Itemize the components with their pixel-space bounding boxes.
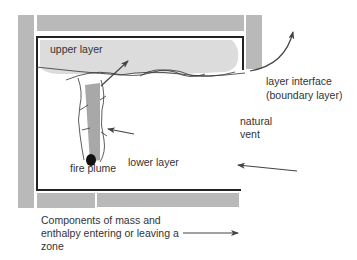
natural-vent-label-1: natural bbox=[240, 115, 272, 127]
two-zone-fire-diagram: upper layer layer interface (boundary la… bbox=[0, 0, 357, 260]
left-wall bbox=[18, 15, 34, 208]
right-wall-upper bbox=[246, 15, 262, 69]
lower-layer-label: lower layer bbox=[128, 156, 179, 168]
legend-text-3: zone bbox=[41, 240, 64, 252]
vent-inflow-arrow bbox=[238, 165, 297, 171]
legend-text-2: enthalpy entering or leaving a bbox=[41, 227, 179, 239]
boundary-layer-label: (boundary layer) bbox=[266, 89, 342, 101]
room-outline-lower bbox=[37, 69, 241, 190]
ceiling-wall bbox=[37, 15, 244, 31]
fire-plume bbox=[78, 78, 107, 166]
natural-vent-label-2: vent bbox=[240, 128, 260, 140]
layer-interface-label: layer interface bbox=[266, 75, 332, 87]
fire-plume-label: fire plume bbox=[70, 162, 116, 174]
upper-layer-label: upper layer bbox=[50, 43, 103, 55]
floor-wall-right bbox=[97, 193, 239, 207]
entrainment-arrow bbox=[108, 129, 134, 134]
floor-wall-left bbox=[37, 193, 95, 208]
legend-text-1: Components of mass and bbox=[41, 214, 161, 226]
